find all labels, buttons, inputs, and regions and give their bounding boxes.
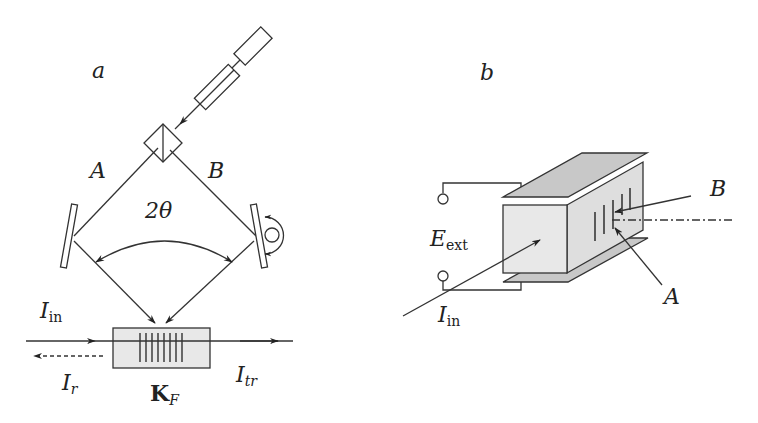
terminal-bottom [438,271,448,281]
panel-a-label: a [92,60,105,82]
angle-label: 2θ [145,200,172,222]
field-label: Eext [430,228,468,252]
beam-a-label: A [90,160,106,182]
input-intensity-label: Iin [40,300,62,324]
beam-b-label-b: B [710,178,726,200]
beam-a-arrow [615,228,662,285]
laser-icon [234,27,272,65]
panel-b-label: b [480,62,494,84]
figure: a A B 2θ Iin Ir Itr KF b Eext Iin B A [0,0,758,423]
terminal-top [438,194,448,204]
angle-arc [96,241,232,262]
diagram-canvas [0,0,758,423]
transmitted-intensity-label: Itr [236,364,257,388]
beam-b-reflected [166,241,254,323]
laser-link [232,60,240,68]
mirror-left-icon [60,204,77,268]
crystal-label: KF [150,382,179,407]
reflected-intensity-label: Ir [62,372,77,396]
beam-b-label: B [208,160,224,182]
beam-expander-icon [194,64,239,109]
beam-a-label-b: A [664,286,680,308]
input-intensity-label-b: Iin [438,304,460,328]
crystal-kf [113,328,210,368]
rotation-icon [265,217,284,254]
wire-top [443,183,521,193]
beam-a-reflected [74,241,155,323]
crystal-front-face [503,205,567,273]
laser-beam [180,104,200,124]
